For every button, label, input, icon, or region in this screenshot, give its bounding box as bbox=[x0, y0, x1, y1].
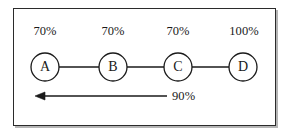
node-percent-label-d: 100% bbox=[229, 25, 259, 38]
node-label-d: D bbox=[238, 60, 248, 74]
node-label-b: B bbox=[108, 60, 117, 74]
node-percent-label-c: 70% bbox=[166, 25, 189, 38]
diagram-root: 70% 70% 70% 100% A B C D 90% bbox=[0, 0, 290, 137]
node-label-a: A bbox=[40, 60, 50, 74]
flow-arrow-label: 90% bbox=[172, 90, 195, 103]
node-percent-label-a: 70% bbox=[33, 25, 56, 38]
node-percent-label-b: 70% bbox=[101, 25, 124, 38]
node-label-c: C bbox=[173, 60, 182, 74]
